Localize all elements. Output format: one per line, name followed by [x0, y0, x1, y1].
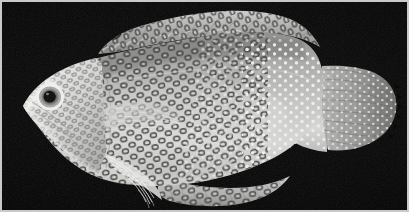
plate-frame [0, 0, 409, 212]
plate-background [2, 2, 407, 210]
figure-root [0, 0, 409, 212]
photographic-grain [4, 4, 407, 210]
fish-specimen [2, 2, 407, 210]
